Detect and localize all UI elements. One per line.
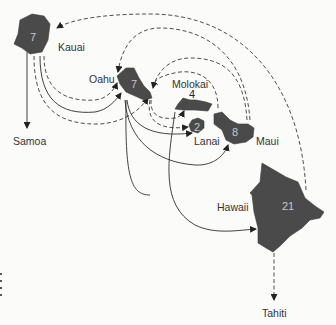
island-lanai: 2 — [189, 118, 204, 133]
arrow-oahu-maui-solid — [125, 100, 228, 165]
island-lanai-label: Lanai — [194, 135, 220, 147]
island-kauai-value: 7 — [30, 31, 36, 43]
island-maui: 8 — [214, 112, 254, 144]
island-oahu: 7 — [117, 68, 152, 100]
island-hawaii-label: Hawaii — [217, 201, 249, 213]
island-oahu-label: Oahu — [89, 73, 115, 85]
island-oahu-value: 7 — [131, 78, 137, 90]
island-lanai-value: 2 — [194, 121, 200, 133]
island-hawaii: 21 — [250, 163, 324, 252]
island-kauai: 7 — [14, 14, 50, 54]
margin-dots — [0, 273, 2, 296]
arrow-oahu-hawaii-solid — [126, 100, 150, 195]
island-maui-label: Maui — [256, 135, 279, 147]
island-kauai-label: Kauai — [58, 41, 85, 53]
island-molokai-label: Molokai — [172, 78, 208, 90]
destination-tahiti-label: Tahiti — [262, 307, 287, 319]
island-migration-diagram: 7 Kauai 7 Oahu 4 Molokai 2 Lanai 8 Maui … — [0, 0, 336, 325]
island-hawaii-value: 21 — [282, 200, 294, 212]
arrows — [27, 14, 306, 300]
destination-samoa-label: Samoa — [13, 135, 46, 147]
island-maui-value: 8 — [232, 126, 238, 138]
island-molokai: 4 — [175, 88, 212, 111]
